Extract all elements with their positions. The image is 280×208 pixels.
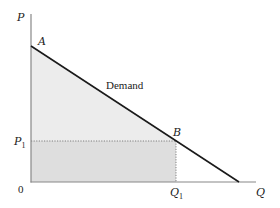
quantity-q1-main: Q (170, 186, 179, 199)
point-b-label: B (172, 126, 181, 139)
quantity-q1-subscript: 1 (179, 192, 183, 201)
quantity-q1-label: Q1 (170, 186, 183, 201)
demand-curve-label: Demand (106, 79, 144, 91)
price-p1-label: P1 (13, 135, 25, 150)
y-axis-label: P (16, 11, 25, 24)
demand-diagram: P Q 0 A B Demand P1 Q1 (0, 0, 280, 208)
point-a-label: A (37, 35, 46, 48)
x-axis-label: Q (256, 186, 265, 199)
expenditure-region (31, 141, 176, 182)
price-p1-subscript: 1 (21, 141, 25, 150)
origin-label: 0 (18, 183, 24, 195)
